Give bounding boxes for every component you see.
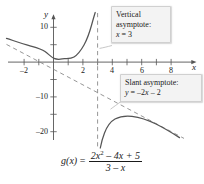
x-tick-label-2: 2 bbox=[76, 66, 90, 75]
vertical-asymptote-callout: Vertical asymptote: x = 3 bbox=[111, 6, 171, 43]
formula-fraction: 2x2 – 4x + 5 3 – x bbox=[89, 150, 142, 173]
vertical-callout-value: = 3 bbox=[120, 30, 133, 39]
formula-denominator: 3 – x bbox=[89, 162, 142, 173]
curve-left-branch bbox=[7, 13, 96, 60]
formula-num-b: – 4x + 5 bbox=[104, 150, 140, 161]
slant-callout-end: – 2 bbox=[149, 88, 161, 97]
formula-fn-arg: (x) bbox=[66, 155, 77, 166]
slant-callout-line1: Slant asymptote: bbox=[125, 78, 197, 88]
vertical-callout-line1: Vertical bbox=[116, 10, 166, 20]
y-tick-label-neg10: –10 bbox=[27, 92, 48, 101]
slant-callout-mid: = –2 bbox=[129, 88, 146, 97]
slant-callout-line2: y = –2x – 2 bbox=[125, 88, 197, 98]
y-tick-label-10: 10 bbox=[32, 22, 48, 31]
y-tick-label-neg20: –20 bbox=[27, 127, 48, 136]
formula-equals: = bbox=[80, 155, 86, 166]
function-formula: g(x) = 2x2 – 4x + 5 3 – x bbox=[0, 150, 204, 173]
vertical-callout-leader bbox=[100, 46, 113, 49]
formula-numerator: 2x2 – 4x + 5 bbox=[89, 150, 142, 162]
y-axis-label: y bbox=[44, 9, 48, 19]
vertical-callout-line2: asymptote: bbox=[116, 20, 166, 30]
y-axis bbox=[50, 14, 56, 140]
x-tick-label-neg2: –2 bbox=[17, 66, 31, 75]
curve-right-branch bbox=[100, 116, 179, 148]
slant-asymptote-callout: Slant asymptote: y = –2x – 2 bbox=[120, 74, 202, 102]
x-tick-label-4: 4 bbox=[105, 66, 119, 75]
formula-num-a: 2x bbox=[91, 150, 100, 161]
x-axis-label: x bbox=[192, 62, 196, 72]
vertical-callout-line3: x = 3 bbox=[116, 30, 166, 40]
rational-function-figure: y x –2 2 4 6 8 10 –10 –20 Vertical asymp… bbox=[0, 0, 204, 184]
